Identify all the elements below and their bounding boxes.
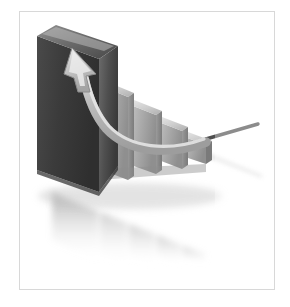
bar-3-front (156, 111, 162, 174)
right-fade-wash (215, 12, 275, 289)
bar-1 (37, 25, 118, 196)
bar-chart-illustration (0, 0, 290, 307)
contact-shadow (38, 183, 222, 209)
illustration-canvas: 3D bar chart with upward growth arrow (0, 0, 290, 307)
bar-2-front (128, 93, 134, 180)
